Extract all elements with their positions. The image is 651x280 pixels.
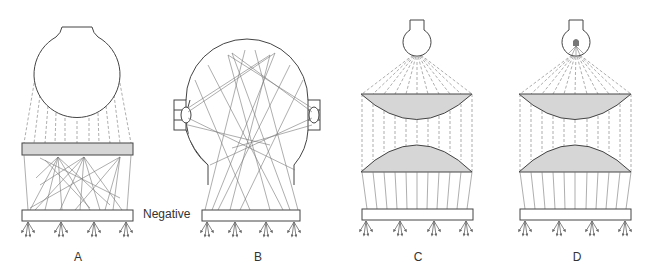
panel-c-label: C bbox=[414, 250, 423, 264]
panel-a-rays-scattered bbox=[24, 155, 131, 210]
panel-d-label: D bbox=[573, 250, 582, 264]
panel-d-negative bbox=[520, 209, 631, 220]
panel-a-output-arrows bbox=[22, 222, 132, 236]
panel-b bbox=[174, 39, 320, 236]
panel-d bbox=[519, 20, 631, 235]
panel-b-output-arrows bbox=[201, 222, 300, 236]
panel-c-rays-converging bbox=[362, 172, 472, 209]
panel-c-upper-condenser-lens bbox=[361, 94, 472, 120]
panel-b-negative bbox=[202, 210, 300, 221]
panel-a bbox=[22, 27, 133, 236]
panel-d-rays-fan bbox=[520, 52, 631, 94]
panel-a-negative bbox=[22, 210, 133, 221]
panel-d-lower-condenser-lens bbox=[519, 145, 631, 172]
panel-c bbox=[360, 20, 473, 235]
panel-a-diffuser-plate bbox=[22, 143, 133, 155]
panel-d-upper-condenser-lens bbox=[519, 94, 631, 120]
panel-c-negative bbox=[362, 209, 473, 220]
negative-label: Negative bbox=[143, 207, 190, 221]
panel-a-label: A bbox=[74, 250, 82, 264]
panel-c-bulb bbox=[403, 20, 431, 56]
panel-a-bulb bbox=[34, 27, 120, 118]
panel-d-rays-converging bbox=[520, 172, 631, 209]
panel-b-label: B bbox=[254, 250, 262, 264]
panel-d-output-arrows bbox=[519, 221, 631, 235]
panel-c-rays-fan bbox=[362, 52, 472, 94]
panel-c-lower-condenser-lens bbox=[361, 145, 472, 172]
panel-c-output-arrows bbox=[360, 221, 472, 235]
diagram-canvas bbox=[0, 0, 651, 280]
